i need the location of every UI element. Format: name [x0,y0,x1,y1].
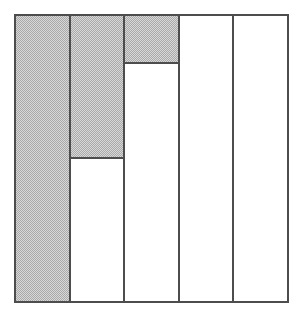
bar-column-3 [125,16,180,301]
bar-column-1 [16,16,71,301]
bar-fill-1 [16,16,69,301]
bar-column-4 [180,16,235,301]
bar-column-2 [71,16,126,301]
figure-root [0,0,303,320]
bar-fill-3 [125,16,178,64]
bar-column-5 [234,16,287,301]
bar-chart-frame [14,14,289,303]
bar-fill-2 [71,16,124,159]
